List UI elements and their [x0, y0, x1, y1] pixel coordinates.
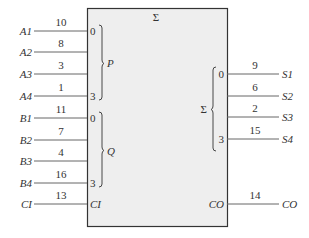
- input-value: 1: [58, 81, 64, 93]
- input-B1: B1 11 0: [20, 103, 96, 124]
- output-S2: 6 S2: [227, 81, 294, 102]
- output-S3: 2 S3: [227, 102, 294, 123]
- output-label: S4: [282, 133, 294, 145]
- input-value: 7: [58, 125, 64, 137]
- input-value: 4: [58, 146, 64, 158]
- pin-label: 3: [219, 133, 225, 145]
- input-label: A3: [19, 68, 33, 80]
- input-value: 3: [58, 59, 64, 71]
- input-value: 13: [56, 189, 68, 201]
- group-label-sum: Σ: [201, 103, 207, 115]
- input-value: 8: [58, 37, 64, 49]
- input-label: B3: [20, 155, 33, 167]
- input-label: CI: [21, 198, 33, 210]
- input-B3: B3 4: [20, 146, 87, 167]
- input-label: A2: [19, 46, 33, 58]
- input-B2: B2 7: [20, 125, 87, 146]
- output-label: S2: [282, 90, 294, 102]
- input-A3: A3 3: [19, 59, 87, 80]
- pin-label: 0: [90, 25, 96, 37]
- pin-label: 0: [90, 112, 96, 124]
- pin-label: CO: [209, 198, 224, 210]
- output-S1: 0 9 S1: [219, 59, 294, 80]
- input-A1: A1 10 0: [19, 16, 96, 37]
- block-title: Σ: [153, 11, 159, 23]
- input-A4: A4 1 3: [19, 81, 96, 102]
- pin-label: 0: [219, 68, 225, 80]
- input-value: 10: [56, 16, 68, 28]
- adder-block: [88, 9, 228, 227]
- input-A2: A2 8: [19, 37, 87, 58]
- input-label: A1: [19, 25, 32, 37]
- output-label: S3: [282, 111, 294, 123]
- input-label: B1: [20, 112, 32, 124]
- output-value: 14: [250, 189, 262, 201]
- output-S4: 3 15 S4: [219, 124, 294, 145]
- output-label: CO: [282, 198, 297, 210]
- output-value: 15: [250, 124, 262, 136]
- output-label: S1: [282, 68, 293, 80]
- adder-diagram: Σ A1 10 0 A2 8 A3 3 A4 1 3 B1 11 0 B2 7 …: [0, 0, 309, 238]
- output-value: 6: [252, 81, 258, 93]
- input-value: 16: [56, 168, 68, 180]
- pin-label: 3: [90, 90, 96, 102]
- group-label-P: P: [106, 57, 114, 69]
- output-value: 9: [252, 59, 258, 71]
- input-label: A4: [19, 90, 33, 102]
- input-label: B2: [20, 134, 33, 146]
- pin-label: CI: [90, 198, 102, 210]
- pin-label: 3: [90, 177, 96, 189]
- input-B4: B4 16 3: [20, 168, 96, 189]
- input-label: B4: [20, 177, 33, 189]
- input-value: 11: [56, 103, 67, 115]
- output-value: 2: [252, 102, 258, 114]
- group-label-Q: Q: [107, 145, 115, 157]
